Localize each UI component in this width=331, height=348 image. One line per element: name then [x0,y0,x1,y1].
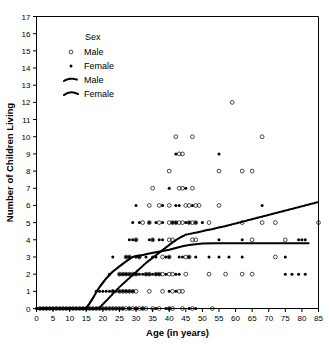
data-point-female [95,290,98,293]
data-point-female [135,307,138,310]
data-point-female [297,238,300,241]
data-point-female [151,273,154,276]
chart-legend: SexMaleFemaleMaleFemale [64,32,114,99]
x-tick-label: 5 [51,314,56,323]
data-point-female [88,307,91,310]
data-point-female [121,307,124,310]
legend-entry-3[interactable]: Female [64,89,114,99]
y-tick-label: 2 [26,270,31,279]
data-point-female [241,238,244,241]
data-point-male [250,169,254,173]
data-point-male [141,221,145,225]
data-point-female [128,255,131,258]
y-tick-label: 9 [26,150,31,159]
y-tick-label: 14 [22,64,31,73]
data-point-female [128,307,131,310]
data-point-female [115,307,118,310]
x-tick-label: 60 [231,314,240,323]
data-point-female [194,255,197,258]
legend-entry-0[interactable]: Male [69,47,103,57]
axes [33,17,319,313]
data-point-female [154,273,157,276]
data-point-female [148,238,151,241]
legend-label: Female [84,61,114,71]
data-point-female [174,152,177,155]
data-point-female [158,238,161,241]
x-tick-label: 35 [148,314,157,323]
data-point-female [118,307,121,310]
data-point-female [42,307,45,310]
data-point-female [181,255,184,258]
data-point-female [98,290,101,293]
data-point-female [81,307,84,310]
data-point-male [184,272,188,276]
data-point-female [164,273,167,276]
data-point-female [108,290,111,293]
data-point-female [85,307,88,310]
data-point-female [178,273,181,276]
data-point-male [217,169,221,173]
data-point-female [144,255,147,258]
data-point-male [147,289,151,293]
data-point-male [273,255,277,259]
data-point-female [35,307,38,310]
data-point-male [260,221,264,225]
data-point-female [304,238,307,241]
data-point-female [304,273,307,276]
data-point-female [161,221,164,224]
data-point-female [138,255,141,258]
data-point-female [128,238,131,241]
data-point-male [207,221,211,225]
y-tick-label: 11 [22,116,31,125]
data-point-male [283,238,287,242]
y-tick-label: 16 [22,30,31,39]
data-point-male [191,186,195,190]
data-point-female [71,307,74,310]
data-point-female [125,255,128,258]
data-point-female [118,290,121,293]
data-point-female [168,307,171,310]
x-tick-label: 65 [248,314,257,323]
data-point-female [101,290,104,293]
data-point-female [188,221,191,224]
data-point-male [151,186,155,190]
x-tick-label: 70 [264,314,273,323]
data-point-female [128,273,131,276]
legend-label: Female [84,89,114,99]
data-point-male [230,100,234,104]
data-point-female [55,307,58,310]
data-point-female [121,273,124,276]
legend-marker-open-circle-icon [69,50,73,54]
data-point-male [147,204,151,208]
data-point-female [111,307,114,310]
y-tick-label: 12 [22,98,31,107]
axis-labels: 0510152025303540455055606570758085012345… [4,13,323,338]
data-point-female [141,273,144,276]
data-point-male [191,135,195,139]
data-point-female [135,273,138,276]
data-point-male [161,289,165,293]
data-point-male [260,135,264,139]
data-point-male [174,135,178,139]
y-tick-label: 8 [26,167,31,176]
legend-entry-1[interactable]: Female [70,61,115,71]
data-point-female [154,221,157,224]
data-point-female [131,238,134,241]
x-tick-label: 15 [82,314,91,323]
legend-label: Male [84,75,104,85]
legend-marker-solid-line-icon [64,92,78,95]
legend-label: Male [84,47,104,57]
legend-entry-2[interactable]: Male [64,75,104,85]
data-point-female [227,255,230,258]
data-point-female [128,290,131,293]
legend-title: Sex [85,32,101,42]
x-tick-label: 85 [314,314,323,323]
data-point-female [164,307,167,310]
y-tick-label: 3 [26,253,31,262]
data-point-female [217,255,220,258]
data-point-female [174,221,177,224]
x-axis-title: Age (in years) [146,327,209,338]
data-point-female [194,221,197,224]
data-point-female [115,290,118,293]
data-point-male [250,238,254,242]
